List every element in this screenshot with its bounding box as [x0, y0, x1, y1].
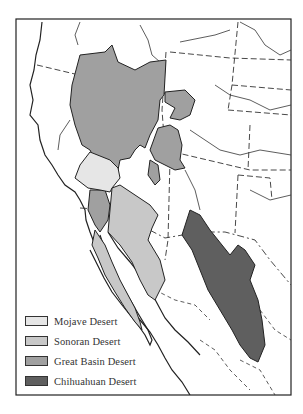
legend-label: Great Basin Desert	[54, 356, 136, 367]
legend: Mojave Desert Sonoran Desert Great Basin…	[25, 311, 136, 391]
chihuahuan-swatch	[25, 376, 48, 386]
legend-item-chihuahuan: Chihuahuan Desert	[25, 371, 136, 391]
legend-item-mojave: Mojave Desert	[25, 311, 136, 331]
sonoran-swatch	[25, 336, 48, 346]
legend-item-great-basin: Great Basin Desert	[25, 351, 136, 371]
legend-label: Sonoran Desert	[54, 336, 120, 347]
great-basin-swatch	[25, 356, 48, 366]
legend-item-sonoran: Sonoran Desert	[25, 331, 136, 351]
mojave-swatch	[25, 316, 48, 326]
legend-label: Chihuahuan Desert	[54, 376, 136, 387]
legend-label: Mojave Desert	[54, 316, 117, 327]
